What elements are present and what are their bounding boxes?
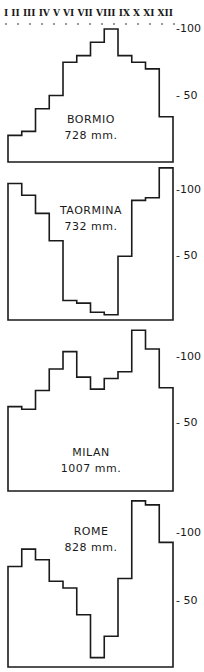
chart-title-rome: ROME 828 mm. xyxy=(46,524,136,556)
annual-total: 732 mm. xyxy=(46,219,136,235)
ytick-100: -100 xyxy=(176,183,201,196)
annual-total: 1007 mm. xyxy=(46,461,136,477)
annual-total: 728 mm. xyxy=(46,128,136,144)
step-series-taormina xyxy=(8,168,173,320)
rainfall-charts: I II III IV V VI VII VIII IX X XI XII BO… xyxy=(0,0,204,672)
city-name: MILAN xyxy=(46,445,136,461)
city-name: BORMIO xyxy=(46,112,136,128)
chart-title-taormina: TAORMINA 732 mm. xyxy=(46,203,136,235)
ytick-100: -100 xyxy=(176,22,201,35)
chart-title-milan: MILAN 1007 mm. xyxy=(46,445,136,477)
ytick-50: - 50 xyxy=(176,89,197,102)
ytick-50: - 50 xyxy=(176,594,197,607)
city-name: ROME xyxy=(46,524,136,540)
chart-title-bormio: BORMIO 728 mm. xyxy=(46,112,136,144)
ytick-50: - 50 xyxy=(176,249,197,262)
ytick-100: -100 xyxy=(176,526,201,539)
ytick-50: - 50 xyxy=(176,416,197,429)
annual-total: 828 mm. xyxy=(46,540,136,556)
ytick-100: -100 xyxy=(176,350,201,363)
city-name: TAORMINA xyxy=(46,203,136,219)
step-charts-svg xyxy=(0,0,204,672)
